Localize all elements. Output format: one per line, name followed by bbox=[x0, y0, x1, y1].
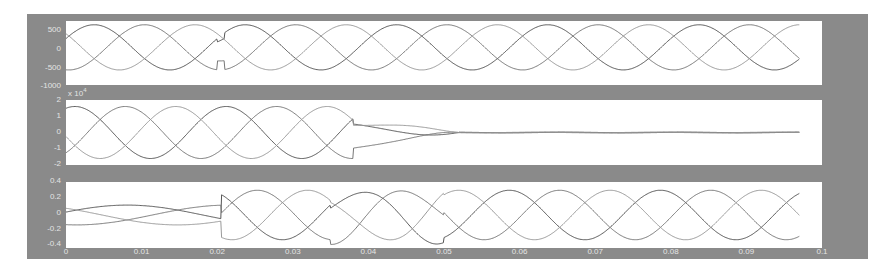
plot-current bbox=[66, 100, 822, 165]
ytick-label: -500 bbox=[45, 64, 61, 72]
ytick-label: 0.4 bbox=[50, 177, 61, 185]
ytick-label: -1 bbox=[54, 144, 61, 152]
signal-lines bbox=[66, 182, 822, 248]
plot-voltage bbox=[66, 21, 822, 85]
ytick-label: -0.4 bbox=[47, 240, 61, 248]
xtick-label: 0.07 bbox=[587, 248, 603, 256]
xtick-label: 0.06 bbox=[512, 248, 528, 256]
ytick-label: 0.2 bbox=[50, 193, 61, 201]
xtick-label: 0 bbox=[64, 248, 68, 256]
xtick-label: 0.04 bbox=[361, 248, 377, 256]
ytick-label: 500 bbox=[48, 26, 61, 34]
current-lines bbox=[66, 100, 822, 165]
ytick-label: 0 bbox=[57, 45, 61, 53]
xtick-label: 0.03 bbox=[285, 248, 301, 256]
ytick-label: 1 bbox=[57, 112, 61, 120]
figure-window: 500 0 -500 -1000 x 104 2 1 0 -1 -2 0.4 0… bbox=[27, 14, 868, 259]
ytick-label: 0 bbox=[57, 128, 61, 136]
y-exponent-label: x 104 bbox=[68, 87, 86, 98]
voltage-lines bbox=[66, 21, 822, 85]
ytick-label: -1000 bbox=[41, 82, 61, 90]
ytick-label: 2 bbox=[57, 96, 61, 104]
xtick-label: 0.08 bbox=[663, 248, 679, 256]
xtick-label: 0.02 bbox=[209, 248, 225, 256]
ytick-label: -0.2 bbox=[47, 225, 61, 233]
xtick-label: 0.09 bbox=[739, 248, 755, 256]
xtick-label: 0.05 bbox=[436, 248, 452, 256]
xtick-label: 0.01 bbox=[134, 248, 150, 256]
ytick-label: 0 bbox=[57, 209, 61, 217]
ytick-label: -2 bbox=[54, 160, 61, 168]
plot-signal bbox=[66, 182, 822, 248]
xtick-label: 0.1 bbox=[816, 248, 827, 256]
